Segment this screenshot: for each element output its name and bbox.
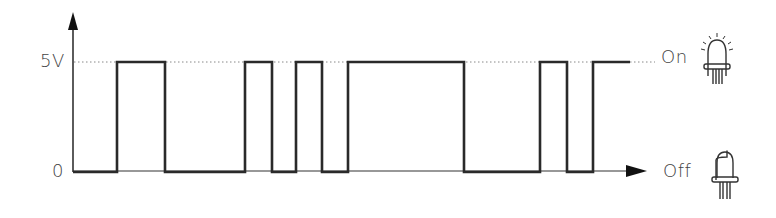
pwm-waveform (73, 62, 630, 172)
state-label-off: Off (663, 160, 691, 181)
signal-diagram (0, 0, 776, 218)
y-axis-arrow-icon (68, 12, 78, 30)
y-label-high: 5V (40, 50, 65, 71)
state-label-on: On (661, 46, 688, 67)
y-label-low: 0 (52, 160, 64, 181)
x-axis-arrow-icon (626, 165, 647, 177)
led-unlit-icon (712, 151, 738, 199)
led-lit-icon (701, 33, 733, 84)
